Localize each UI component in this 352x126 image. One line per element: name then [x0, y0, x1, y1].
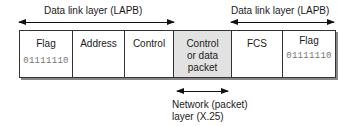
flag-field-start: Flag 01111110: [20, 31, 73, 77]
left-span-arrow: [19, 22, 174, 23]
right-layer-label: Data link layer (LAPB): [231, 5, 329, 16]
field-label: Control: [125, 38, 173, 50]
field-label: FCS: [232, 38, 282, 50]
field-label: Flag: [20, 38, 72, 50]
flag-field-end: Flag 01111110: [283, 31, 335, 77]
flag-bits: 01111110: [20, 55, 72, 67]
control-or-data-packet-field: Control or data packet: [174, 31, 232, 77]
control-field: Control: [125, 31, 174, 77]
fcs-field: FCS: [232, 31, 283, 77]
network-layer-label-line2: layer (X.25): [172, 111, 224, 122]
field-label-line2: or data: [174, 50, 231, 62]
right-span-arrow: [231, 22, 334, 23]
field-label-line1: Control: [174, 38, 231, 50]
address-field: Address: [73, 31, 125, 77]
field-label: Address: [73, 38, 124, 50]
network-layer-label-line1: Network (packet): [172, 99, 248, 110]
lapb-frame: Flag 01111110 Address Control Control or…: [19, 30, 336, 78]
field-label-line3: packet: [174, 62, 231, 74]
network-span-arrow: [177, 91, 228, 92]
field-label: Flag: [283, 35, 335, 47]
flag-bits: 01111110: [283, 50, 335, 62]
left-layer-label: Data link layer (LAPB): [44, 5, 142, 16]
